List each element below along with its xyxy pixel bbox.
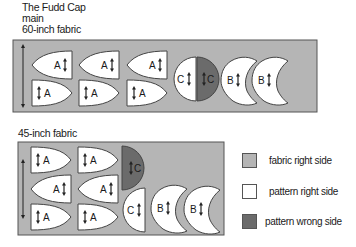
svg-text:A: A (54, 60, 61, 71)
svg-text:A: A (91, 88, 98, 99)
legend-swatch-pattern-right (242, 184, 257, 199)
layout-60-inch: A A A A A A C C B B (13, 40, 317, 112)
svg-text:A: A (53, 184, 60, 195)
svg-text:A: A (43, 212, 50, 223)
legend-swatch-fabric (242, 153, 257, 168)
legend-item-pattern-wrong-side: pattern wrong side (242, 214, 342, 229)
legend-label: pattern right side (269, 186, 338, 197)
svg-text:A: A (44, 88, 51, 99)
svg-text:A: A (139, 88, 146, 99)
legend-item-pattern-right-side: pattern right side (242, 184, 338, 199)
svg-text:B: B (157, 203, 164, 214)
legend-label: pattern wrong side (265, 216, 342, 227)
svg-text:C: C (207, 74, 214, 85)
layout-45-inch: A A A A A A C C B (18, 142, 224, 235)
svg-text:A: A (90, 155, 97, 166)
svg-text:A: A (101, 60, 108, 71)
svg-text:B: B (190, 204, 197, 215)
svg-text:C: C (177, 74, 184, 85)
svg-text:C: C (127, 205, 134, 216)
svg-text:A: A (149, 60, 156, 71)
svg-text:B: B (258, 75, 265, 86)
svg-text:A: A (100, 184, 107, 195)
cutting-layout-diagram: A A A A A A C C B B (0, 0, 356, 247)
legend-label: fabric right side (269, 155, 332, 166)
svg-text:A: A (43, 155, 50, 166)
svg-text:B: B (227, 75, 234, 86)
svg-text:A: A (90, 212, 97, 223)
svg-text:C: C (134, 163, 141, 174)
legend-item-fabric-right-side: fabric right side (242, 153, 332, 168)
legend-swatch-pattern-wrong (242, 214, 257, 229)
